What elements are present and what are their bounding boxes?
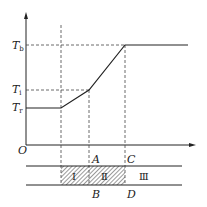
label-a: A [91, 153, 100, 166]
y-axis-arrow-icon [24, 12, 28, 19]
y-tick-tr: Tr [12, 101, 23, 115]
origin-label: O [18, 144, 27, 157]
zone-label-1: Ⅰ [72, 171, 76, 182]
axes [24, 12, 196, 147]
zone-label-2: Ⅱ [101, 171, 108, 182]
label-c: C [127, 153, 136, 166]
label-b: B [91, 188, 100, 201]
guide-lines [26, 25, 125, 185]
y-tick-tb: Tb [12, 39, 24, 53]
y-tick-ti: Ti [12, 83, 22, 97]
temperature-zone-diagram: O Tb Ti Tr A C B D Ⅰ Ⅱ Ⅲ [0, 0, 207, 207]
zone-label-3: Ⅲ [139, 171, 149, 182]
x-axis-arrow-icon [189, 143, 196, 147]
temperature-curve [26, 45, 188, 108]
label-d: D [126, 188, 136, 201]
